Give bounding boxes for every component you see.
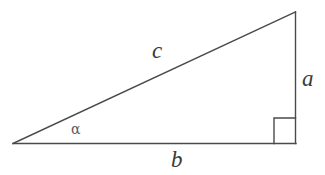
vertical-side-label: a <box>302 67 314 90</box>
base-side-label: b <box>171 148 183 171</box>
right-triangle-diagram: c a b α <box>0 0 325 175</box>
triangle-graphic <box>0 0 325 175</box>
hypotenuse-label: c <box>152 39 162 62</box>
right-angle-square-icon <box>274 118 296 144</box>
angle-alpha-label: α <box>71 122 80 136</box>
hypotenuse-line <box>13 12 296 144</box>
